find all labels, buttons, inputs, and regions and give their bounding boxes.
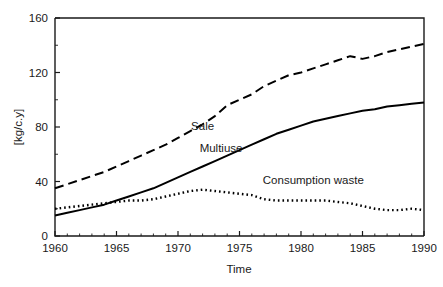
x-axis-title: Time — [226, 263, 251, 275]
x-axis-tick-labels: 1960196519701975198019851990 — [42, 242, 437, 254]
y-axis-tick-labels: 04080120160 — [29, 12, 48, 242]
series-annotations: SaleMultiuseConsumption waste — [191, 120, 364, 187]
series-label-multiuse: Multiuse — [200, 142, 243, 154]
y-tick-label-40: 40 — [35, 176, 48, 188]
series-line-consumption-waste — [55, 190, 424, 210]
series-paths — [55, 44, 424, 216]
y-tick-label-80: 80 — [35, 121, 48, 133]
x-tick-label-1980: 1980 — [288, 242, 314, 254]
chart-figure: 04080120160 1960196519701975198019851990… — [0, 0, 443, 287]
x-axis-major-ticks — [55, 231, 424, 236]
x-tick-label-1990: 1990 — [411, 242, 437, 254]
series-line-sale — [55, 44, 424, 188]
x-tick-label-1985: 1985 — [350, 242, 376, 254]
x-tick-label-1965: 1965 — [104, 242, 130, 254]
y-tick-label-160: 160 — [29, 12, 48, 24]
y-tick-label-120: 120 — [29, 67, 48, 79]
y-tick-label-0: 0 — [42, 230, 48, 242]
line-chart-svg: 04080120160 1960196519701975198019851990… — [0, 0, 443, 287]
x-tick-label-1975: 1975 — [227, 242, 253, 254]
y-axis-major-ticks — [55, 18, 60, 236]
series-label-sale: Sale — [191, 120, 214, 132]
series-label-consumption-waste: Consumption waste — [263, 174, 364, 186]
x-tick-label-1960: 1960 — [42, 242, 68, 254]
y-axis-title: [kg/c.y] — [12, 109, 24, 145]
x-tick-label-1970: 1970 — [165, 242, 191, 254]
series-line-multiuse — [55, 102, 424, 215]
